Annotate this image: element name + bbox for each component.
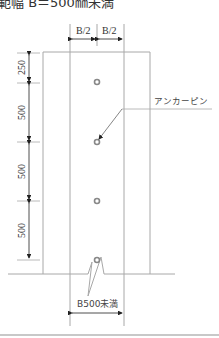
bottom-dim-label: B500未満: [77, 298, 118, 309]
left-dim-label-2: 500: [16, 105, 27, 120]
top-dim-label-2: B/2: [102, 25, 116, 36]
wall-outline: [8, 24, 175, 326]
divider: [0, 334, 219, 336]
anchor-pin-icon: [95, 80, 100, 85]
left-dim-label-4: 500: [16, 223, 27, 238]
anchor-pin-icon: [95, 140, 100, 145]
anchor-pin-icon: [95, 258, 100, 263]
anchor-pin-diagram: B/2 B/2 250 500 500 500 アンカーピン B500未満: [0, 0, 219, 338]
callout-label: アンカーピン: [154, 96, 208, 106]
left-dim-label-3: 500: [16, 164, 27, 179]
left-dim-label-1: 250: [16, 60, 27, 75]
top-dim-label-1: B/2: [76, 25, 90, 36]
anchor-pins: [95, 80, 100, 263]
anchor-pin-icon: [95, 199, 100, 204]
